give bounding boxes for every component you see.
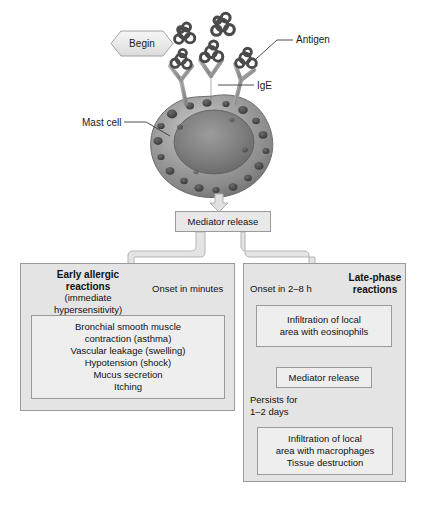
eosinophil-line2: area with eosinophils bbox=[280, 326, 369, 338]
early-header-line2: reactions bbox=[28, 281, 148, 293]
mast-cell-label: Mast cell bbox=[82, 117, 121, 128]
antigen-label: Antigen bbox=[296, 34, 330, 45]
early-header-sub1: (immediate bbox=[28, 292, 148, 304]
mediator-release-text-late: Mediator release bbox=[289, 372, 360, 384]
ige-label: IgE bbox=[257, 80, 272, 91]
early-symptom-4: Hypotension (shock) bbox=[85, 357, 172, 369]
eosinophil-infiltration-box: Infiltration of local area with eosinoph… bbox=[256, 305, 392, 347]
early-symptom-5: Mucus secretion bbox=[93, 369, 162, 381]
begin-label: Begin bbox=[111, 31, 173, 56]
early-symptoms-box: Bronchial smooth muscle contraction (ast… bbox=[31, 315, 225, 399]
begin-node: Begin bbox=[111, 31, 173, 56]
macrophage-line3: Tissue destruction bbox=[287, 457, 364, 469]
macrophage-line2: area with macrophages bbox=[276, 445, 375, 457]
early-symptom-2: contraction (asthma) bbox=[85, 333, 172, 345]
mediator-release-box-top: Mediator release bbox=[175, 211, 271, 232]
antigen-molecules bbox=[171, 13, 256, 68]
persists-line2: 1–2 days bbox=[250, 406, 298, 418]
late-onset-label: Onset in 2–8 h bbox=[250, 283, 312, 294]
early-onset-label: Onset in minutes bbox=[152, 283, 223, 294]
late-reactions-header: Late-phase reactions bbox=[347, 272, 403, 295]
mediator-release-text-top: Mediator release bbox=[188, 216, 259, 228]
mast-cell-hypersensitivity-diagram: Begin Antigen IgE Mast cell Mediator rel… bbox=[0, 0, 429, 508]
mediator-release-box-late: Mediator release bbox=[276, 367, 372, 388]
late-header-line1: Late-phase bbox=[347, 272, 403, 284]
macrophage-line1: Infiltration of local bbox=[288, 433, 362, 445]
persists-line1: Persists for bbox=[250, 394, 298, 406]
early-header-line1: Early allergic bbox=[28, 269, 148, 281]
persists-duration-label: Persists for 1–2 days bbox=[250, 394, 298, 417]
cell-nucleus bbox=[174, 110, 254, 174]
mast-cell bbox=[151, 95, 273, 198]
early-header-sub2: hypersensitivity) bbox=[28, 304, 148, 316]
eosinophil-line1: Infiltration of local bbox=[287, 314, 361, 326]
late-header-line2: reactions bbox=[347, 284, 403, 296]
early-symptom-1: Bronchial smooth muscle bbox=[75, 321, 181, 333]
macrophage-infiltration-box: Infiltration of local area with macropha… bbox=[257, 427, 393, 475]
early-reactions-header: Early allergic reactions (immediate hype… bbox=[28, 269, 148, 315]
early-symptom-3: Vascular leakage (swelling) bbox=[71, 345, 186, 357]
antigen-leader bbox=[256, 40, 293, 59]
early-symptom-6: Itching bbox=[114, 381, 142, 393]
